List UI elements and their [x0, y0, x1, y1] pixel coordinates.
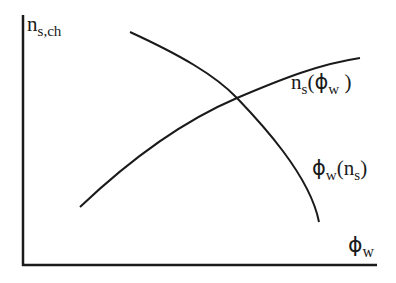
x-axis-label: ϕw: [348, 234, 374, 256]
curve-phiw-label-sub: w: [326, 167, 337, 183]
y-axis-label-sub: s,ch: [38, 23, 62, 39]
curve-phiw-label: ϕw(ns): [312, 158, 367, 179]
curve-ns-label-arg-sub: w: [328, 81, 339, 97]
curve-phiw-label-open: (: [337, 156, 344, 180]
curve-phiw-label-arg-sub: s: [354, 167, 360, 183]
curve-ns-label-sub: s: [302, 81, 308, 97]
curve-ns-label-main: n: [291, 70, 302, 94]
curve-phiw-of-ns: [130, 32, 319, 222]
curve-phiw-label-close: ): [360, 156, 367, 180]
curve-phiw-label-arg-main: n: [344, 156, 355, 180]
phi-symbol-icon: ϕ: [348, 232, 363, 257]
x-axis-label-sub: w: [363, 243, 374, 260]
curve-ns-label: ns(ϕw ): [291, 72, 351, 93]
phi-symbol-icon: ϕ: [312, 156, 326, 180]
y-axis-label-main: n: [27, 12, 38, 36]
phi-symbol-icon: ϕ: [314, 70, 328, 94]
diagram-canvas: [0, 0, 396, 283]
y-axis-label: ns,ch: [27, 14, 61, 35]
curve-ns-label-close: ): [339, 70, 351, 94]
